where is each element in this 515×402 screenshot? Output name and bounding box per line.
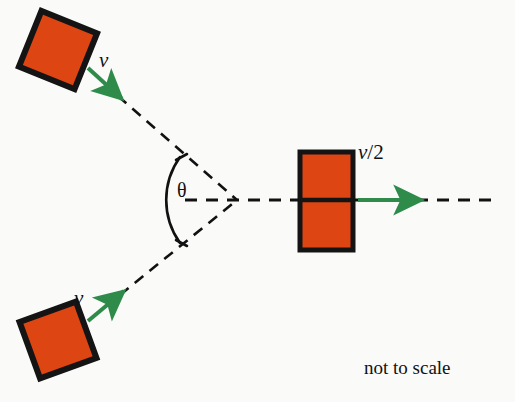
velocity-half-symbol: v <box>358 140 367 164</box>
velocity-half-rest: /2 <box>367 140 383 164</box>
velocity-half-label: v/2 <box>358 142 384 163</box>
block-top-left <box>19 11 97 89</box>
velocity-vectors <box>88 68 422 321</box>
diagram-canvas <box>0 0 515 402</box>
velocity-arrow-lower <box>88 291 124 321</box>
block-top-left-body <box>19 11 97 89</box>
angle-arc-tick-upper <box>176 154 187 160</box>
not-to-scale-note: not to scale <box>364 358 451 377</box>
velocity-arrow-upper <box>88 68 122 99</box>
lower-trajectory-dashed-line <box>120 200 237 295</box>
block-bottom-left <box>20 302 97 379</box>
velocity-label-lower: v <box>74 288 83 309</box>
physics-diagram-figure: v v v/2 θ not to scale <box>0 0 515 402</box>
velocity-label-upper: v <box>99 50 108 71</box>
block-right-combined <box>300 152 353 250</box>
angle-label-theta: θ <box>177 180 187 200</box>
block-bottom-left-body <box>20 302 97 379</box>
